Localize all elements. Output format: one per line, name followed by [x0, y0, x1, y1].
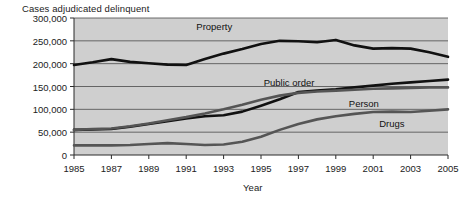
x-tick-label: 1997 — [288, 163, 309, 174]
y-tick-label: 200,000 — [0, 58, 67, 69]
x-tick-label: 1985 — [63, 163, 84, 174]
y-tick-label: 150,000 — [0, 81, 67, 92]
y-tick-label: 50,000 — [0, 127, 67, 138]
x-tick-label: 2003 — [400, 163, 421, 174]
x-tick-label: 1993 — [213, 163, 234, 174]
series-label-person: Person — [349, 97, 379, 108]
y-axis-ticks — [70, 18, 74, 155]
y-tick-label: 0 — [0, 150, 67, 161]
x-axis-ticks — [74, 155, 448, 159]
series-label-drugs: Drugs — [379, 118, 404, 129]
series-label-public-order: Public order — [264, 76, 315, 87]
x-tick-label: 2001 — [363, 163, 384, 174]
chart-container: Cases adjudicated delinquent 050,000100,… — [0, 0, 474, 204]
y-tick-label: 100,000 — [0, 104, 67, 115]
x-tick-label: 1989 — [138, 163, 159, 174]
series-label-property: Property — [196, 20, 232, 31]
x-tick-label: 1999 — [325, 163, 346, 174]
x-tick-label: 1991 — [176, 163, 197, 174]
y-tick-label: 300,000 — [0, 13, 67, 24]
y-tick-label: 250,000 — [0, 35, 67, 46]
x-axis-title: Year — [243, 182, 263, 193]
x-tick-label: 1987 — [101, 163, 122, 174]
x-tick-label: 1995 — [250, 163, 271, 174]
x-tick-label: 2005 — [437, 163, 458, 174]
